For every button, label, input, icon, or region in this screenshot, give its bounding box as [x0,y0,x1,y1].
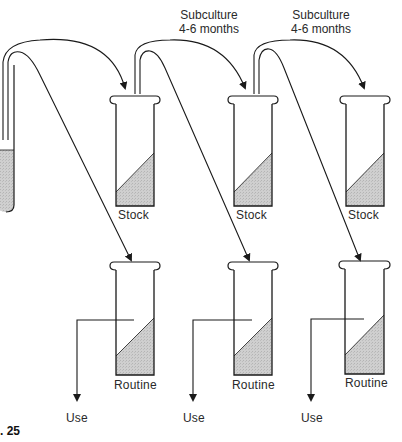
subculture-label-1-line2: 4-6 months [168,22,250,36]
routine-label-1: Routine [114,378,157,392]
stock-label-3: Stock [348,208,379,222]
figure-number: . 25 [0,424,20,438]
use-label-3: Use [301,411,323,425]
subculture-label-1-line1: Subculture [168,8,250,22]
subculture-label-1: Subculture 4-6 months [168,8,250,36]
subculture-diagram [0,0,402,442]
subculture-label-2-line2: 4-6 months [280,22,362,36]
source-tube [0,65,14,212]
routine-label-2: Routine [232,378,275,392]
subculture-label-2-line1: Subculture [280,8,362,22]
use-label-2: Use [183,411,205,425]
subculture-label-2: Subculture 4-6 months [280,8,362,36]
routine-label-3: Routine [345,376,388,390]
use-label-1: Use [66,411,88,425]
transfer-lines-stock2 [254,40,364,260]
stock-label-2: Stock [236,208,267,222]
transfer-lines-source [3,39,131,260]
stock-label-1: Stock [118,208,149,222]
stock-tube-3 [340,96,390,206]
transfer-lines-stock1 [135,40,249,260]
stock-tube-2 [228,96,278,206]
stock-tube-1 [110,96,160,206]
